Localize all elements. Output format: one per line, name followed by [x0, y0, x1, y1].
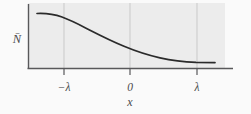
xtick-label-lambda: λ: [194, 81, 200, 93]
plot-svg: N̄ −λ 0 λ x: [0, 0, 251, 114]
xtick-label-minus-lambda: −λ: [58, 81, 71, 93]
y-axis-label: N̄: [12, 32, 22, 46]
x-axis-label: x: [126, 95, 133, 109]
xtick-label-zero: 0: [127, 81, 133, 93]
plot-panel-background: [28, 3, 225, 68]
figure-container: N̄ −λ 0 λ x: [0, 0, 251, 114]
